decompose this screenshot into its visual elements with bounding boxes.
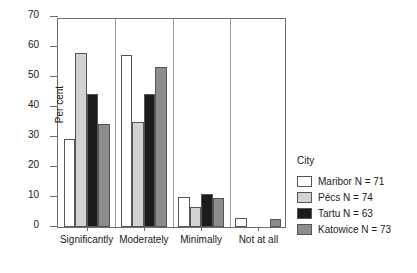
bar (132, 122, 144, 227)
legend-swatch (297, 192, 312, 203)
y-axis-tick: 30 (50, 136, 58, 137)
bar (75, 53, 87, 227)
y-axis-tick: 40 (50, 106, 58, 107)
bar (190, 207, 202, 227)
y-axis-tick-label: 0 (13, 219, 39, 230)
x-axis-category-label: Not at all (230, 234, 287, 245)
bar (213, 198, 225, 227)
y-axis-tick: 10 (50, 196, 58, 197)
x-axis-category-label: Moderately (115, 234, 172, 245)
legend-item-label: Pécs N = 74 (318, 192, 373, 203)
y-axis-tick-label: 40 (13, 99, 39, 110)
bar (98, 124, 110, 227)
y-axis-tick-label: 10 (13, 189, 39, 200)
y-axis-tick: 60 (50, 46, 58, 47)
x-category-separator (115, 19, 116, 227)
y-axis-tick: 0 (50, 226, 58, 227)
bar (87, 94, 99, 228)
bar (235, 218, 247, 227)
y-axis-tick: 20 (50, 166, 58, 167)
x-axis-tick (201, 227, 202, 231)
legend-items: Maribor N = 71Pécs N = 74Tartu N = 63Kat… (297, 175, 415, 236)
y-axis-tick: 50 (50, 76, 58, 77)
bar (144, 94, 156, 228)
y-axis-tick-label: 50 (13, 69, 39, 80)
legend-item-label: Katowice N = 73 (318, 224, 391, 235)
y-axis-tick: 70 (50, 16, 58, 17)
legend-item-label: Maribor N = 71 (318, 176, 384, 187)
y-axis-tick-label: 20 (13, 159, 39, 170)
legend-swatch (297, 224, 312, 235)
legend-title: City (297, 155, 415, 166)
bar (270, 219, 282, 227)
legend-swatch (297, 208, 312, 219)
x-axis-tick (87, 227, 88, 231)
legend-item[interactable]: Pécs N = 74 (297, 191, 415, 204)
x-axis-category-label: Minimally (173, 234, 230, 245)
chart-figure: Per cent 010203040506070 SignificantlyMo… (0, 0, 417, 273)
legend-item[interactable]: Tartu N = 63 (297, 207, 415, 220)
legend-item[interactable]: Katowice N = 73 (297, 223, 415, 236)
x-axis-tick (258, 227, 259, 231)
plot-area: Per cent 010203040506070 SignificantlyMo… (57, 18, 286, 228)
y-axis-tick-label: 30 (13, 129, 39, 140)
bar (155, 67, 167, 227)
bar (64, 139, 76, 228)
y-axis-tick-label: 60 (13, 39, 39, 50)
x-axis-category-label: Significantly (58, 234, 115, 245)
x-category-separator (230, 19, 231, 227)
bar (178, 197, 190, 227)
x-axis-tick (144, 227, 145, 231)
bar (201, 194, 213, 227)
x-category-separator (173, 19, 174, 227)
y-axis-tick-label: 70 (13, 9, 39, 20)
legend: City Maribor N = 71Pécs N = 74Tartu N = … (297, 155, 415, 239)
legend-item-label: Tartu N = 63 (318, 208, 373, 219)
legend-item[interactable]: Maribor N = 71 (297, 175, 415, 188)
legend-swatch (297, 176, 312, 187)
bar (121, 55, 133, 228)
